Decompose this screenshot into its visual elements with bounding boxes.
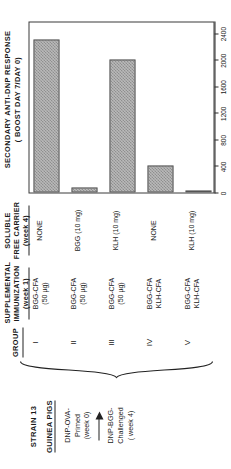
- flow-stage-challenge: DNP-BGG- Challenged ( week 4): [105, 383, 134, 467]
- group-brace-icon: [18, 359, 214, 381]
- column-header-supplemental-immunization: SUPPLEMENTAL IMMUNIZATION (week 1): [2, 263, 29, 323]
- bar-group-II: [71, 187, 97, 192]
- arrow-right-icon: [94, 410, 103, 440]
- prime-line-1: DNP-OVA-: [62, 383, 72, 467]
- challenge-line-2: Challenged: [115, 383, 125, 467]
- group-value-1: I: [30, 327, 39, 357]
- carrier-value-3: KLH (10 mg): [110, 201, 119, 259]
- supplemental-value-5-line-1: BGG-CFA: [182, 263, 191, 323]
- bar-group-III: [109, 59, 135, 192]
- supplemental-value-2: BGG-CFA (50 µg): [68, 263, 86, 323]
- supplemental-value-3-line-1: BGG-CFA: [106, 263, 115, 323]
- supplemental-value-1-line-1: BGG-CFA: [30, 263, 39, 323]
- challenge-line-1: DNP-BGG-: [105, 383, 115, 467]
- experiment-flow: DNP-OVA- Primed (week 0) DNP-BGG- Challe…: [62, 383, 134, 467]
- x-tick-1200: [214, 112, 218, 113]
- supplemental-value-5-line-2: KLH-CFA: [191, 263, 200, 323]
- supplemental-value-4-line-2: KLH-CFA: [153, 263, 162, 323]
- prime-line-2: Primed: [72, 383, 82, 467]
- x-tick-400: [214, 165, 218, 166]
- supplemental-value-4: BGG-CFA KLH-CFA: [144, 263, 162, 323]
- group-value-2: II: [68, 327, 77, 357]
- carrier-header-rule: [28, 205, 29, 255]
- strain-line-2: GUINEA PIGS: [44, 400, 55, 453]
- bar-group-I: [33, 39, 59, 192]
- x-tick-label-1600: 1600: [219, 80, 226, 94]
- x-tick-1600: [214, 86, 218, 87]
- supplemental-value-1: BGG-CFA (50 µg): [30, 263, 48, 323]
- x-tick-2400: [214, 33, 218, 34]
- supplemental-value-5: BGG-CFA KLH-CFA: [182, 263, 200, 323]
- supplemental-value-3-line-2: (50 µg): [115, 263, 124, 323]
- x-tick-label-0: 0: [219, 191, 226, 195]
- flow-stage-prime: DNP-OVA- Primed (week 0): [62, 383, 91, 467]
- chart-x-axis: [214, 21, 215, 193]
- x-tick-label-400: 400: [219, 161, 226, 172]
- bar-group-V: [185, 190, 211, 192]
- chart-title-line-2: ( BOOST DAY 7/DAY 0): [12, 1, 22, 197]
- chart-title-line-1: SECONDARY ANTI-DNP RESPONSE: [2, 1, 12, 197]
- prime-line-3: (week 0): [81, 383, 91, 467]
- x-tick-label-1200: 1200: [219, 106, 226, 120]
- supplemental-value-2-line-2: (50 µg): [77, 263, 86, 323]
- group-value-5: V: [182, 327, 191, 357]
- supplemental-header-line-2: IMMUNIZATION: [11, 263, 20, 323]
- x-tick-2000: [214, 59, 218, 60]
- carrier-value-1: NONE: [34, 201, 43, 259]
- supplemental-value-3: BGG-CFA (50 µg): [106, 263, 124, 323]
- supplemental-value-1-line-2: (50 µg): [39, 263, 48, 323]
- carrier-value-2: BGG (10 mg): [72, 201, 81, 259]
- x-tick-0: [214, 192, 218, 193]
- column-header-group: GROUP: [10, 327, 19, 357]
- supplemental-value-4-line-1: BGG-CFA: [144, 263, 153, 323]
- group-value-3: III: [106, 327, 115, 357]
- strain-block: STRAIN 13 GUINEA PIGS: [28, 389, 55, 463]
- group-header-rule: [22, 327, 23, 357]
- x-tick-label-2400: 2400: [219, 27, 226, 41]
- supplemental-header-rule: [28, 267, 29, 319]
- bar-group-IV: [147, 165, 173, 192]
- carrier-value-5: KLH (10 mg): [186, 201, 195, 259]
- group-value-4: IV: [144, 327, 153, 357]
- carrier-header-line-2: FREE CARRIER: [11, 201, 20, 259]
- figure-panel: STRAIN 13 GUINEA PIGS DNP-OVA- Primed (w…: [0, 0, 231, 469]
- challenge-line-3: ( week 4): [125, 383, 135, 467]
- column-header-soluble-free-carrier: SOLUBLE FREE CARRIER (week 4): [2, 201, 29, 259]
- strain-line-1: STRAIN 13: [28, 389, 37, 463]
- x-tick-800: [214, 139, 218, 140]
- supplemental-value-2-line-1: BGG-CFA: [68, 263, 77, 323]
- x-tick-label-2000: 2000: [219, 53, 226, 67]
- supplemental-header-line-1: SUPPLEMENTAL: [2, 263, 11, 323]
- carrier-header-line-1: SOLUBLE: [2, 201, 11, 259]
- chart-plot-area: [28, 21, 214, 193]
- x-tick-label-800: 800: [219, 135, 226, 146]
- carrier-value-4: NONE: [148, 201, 157, 259]
- chart-title: SECONDARY ANTI-DNP RESPONSE ( BOOST DAY …: [2, 1, 22, 197]
